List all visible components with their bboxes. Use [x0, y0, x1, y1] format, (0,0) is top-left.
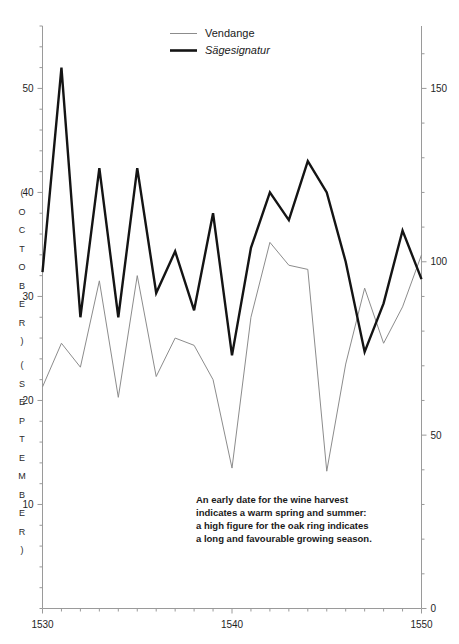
- left-axis-title-char-october: O: [18, 207, 25, 217]
- right-tick-label: 150: [431, 83, 448, 94]
- x-tick-label: 1550: [410, 619, 433, 630]
- left-axis-title-char-october: ): [21, 336, 24, 346]
- plot-series: [43, 68, 422, 472]
- annotation-line-2: indicates a warm spring and summer:: [196, 507, 367, 518]
- left-axis-title-char-october: E: [19, 299, 25, 309]
- chart-container: 1020304050 (OCTOBER) (SEPTEMBER) 0501001…: [0, 0, 459, 644]
- series-line-vendange: [43, 242, 422, 471]
- x-axis-ticks: [43, 609, 422, 614]
- series-line-sagesignatur: [43, 68, 422, 356]
- left-axis-title-char-october: (: [21, 188, 24, 198]
- legend-label-vendange: Vendange: [205, 27, 255, 39]
- left-axis-title-char-october: R: [19, 318, 26, 328]
- left-axis-title-char-september: E: [19, 453, 25, 463]
- left-axis-title-september: (SEPTEMBER): [18, 360, 26, 555]
- left-axis-title-char-september: M: [18, 471, 26, 481]
- left-axis-title-char-september: P: [19, 416, 25, 426]
- left-tick-label: 40: [22, 187, 34, 198]
- chart-legend: Vendange Sägesignatur: [170, 27, 271, 56]
- right-axis-tick-labels: 050100150: [431, 83, 448, 614]
- left-axis-title-char-october: T: [19, 244, 25, 254]
- right-tick-label: 50: [431, 430, 443, 441]
- x-axis-tick-labels: 153015401550: [31, 619, 433, 630]
- left-axis-title-char-september: B: [19, 490, 25, 500]
- annotation-line-4: a long and favourable growing season.: [196, 533, 372, 544]
- annotation-line-3: a high figure for the oak ring indicates: [196, 520, 369, 531]
- right-tick-label: 100: [431, 256, 448, 267]
- left-axis-title-char-september: (: [21, 360, 24, 370]
- x-tick-label: 1540: [221, 619, 244, 630]
- right-axis: 050100150: [422, 26, 448, 614]
- left-axis-tick-labels: 1020304050: [22, 83, 34, 510]
- left-axis-title-char-september: ): [21, 545, 24, 555]
- left-axis-title-char-october: O: [18, 262, 25, 272]
- x-tick-label: 1530: [31, 619, 54, 630]
- chart-figure: 1020304050 (OCTOBER) (SEPTEMBER) 0501001…: [0, 0, 459, 644]
- left-axis-ticks: [38, 26, 43, 609]
- left-axis: 1020304050: [22, 26, 42, 609]
- x-axis: 153015401550: [31, 609, 433, 630]
- left-axis-title-char-september: T: [19, 434, 25, 444]
- left-axis-title-char-october: B: [19, 281, 25, 291]
- annotation-line-1: An early date for the wine harvest: [196, 494, 349, 505]
- left-tick-label: 50: [22, 83, 34, 94]
- left-axis-title-char-october: C: [19, 225, 26, 235]
- right-axis-ticks: [422, 54, 427, 609]
- left-axis-title-char-september: R: [19, 527, 26, 537]
- legend-label-sagesignatur: Sägesignatur: [205, 44, 271, 56]
- left-axis-title-char-september: E: [19, 508, 25, 518]
- left-axis-title-october: (OCTOBER): [18, 188, 25, 346]
- left-axis-title-char-september: S: [19, 379, 25, 389]
- left-axis-title-char-september: E: [19, 397, 25, 407]
- right-tick-label: 0: [431, 603, 437, 614]
- chart-annotation: An early date for the wine harvest indic…: [196, 494, 372, 544]
